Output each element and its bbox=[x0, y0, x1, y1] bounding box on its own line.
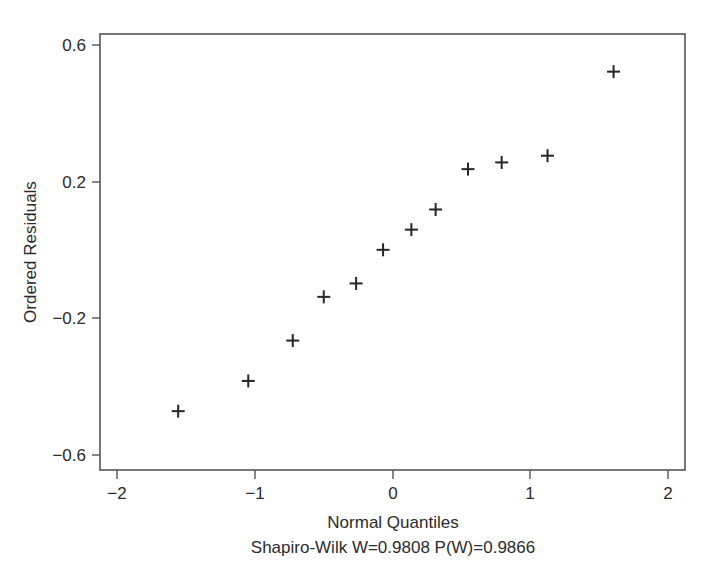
shapiro-wilk-caption: Shapiro-Wilk W=0.9808 P(W)=0.9866 bbox=[251, 538, 535, 557]
x-tick-label-3: 1 bbox=[525, 484, 534, 503]
y-axis-ticks bbox=[92, 45, 100, 455]
y-tick-label-1: −0.2 bbox=[52, 309, 86, 328]
data-point-group bbox=[172, 65, 620, 418]
plot-frame bbox=[100, 34, 685, 470]
y-tick-label-0: −0.6 bbox=[52, 446, 86, 465]
x-axis-ticks bbox=[117, 470, 668, 479]
y-axis-title: Ordered Residuals bbox=[21, 181, 40, 323]
data-point bbox=[317, 290, 330, 303]
data-point bbox=[429, 203, 442, 216]
plot-canvas: 0.6 0.2 −0.2 −0.6 −2 −1 0 1 2 Normal Qua… bbox=[0, 0, 715, 585]
x-tick-label-2: 0 bbox=[388, 484, 397, 503]
data-point bbox=[495, 156, 508, 169]
data-point bbox=[350, 277, 363, 290]
y-axis-tick-labels: 0.6 0.2 −0.2 −0.6 bbox=[52, 36, 86, 465]
data-point bbox=[607, 65, 620, 78]
qq-plot-figure: 0.6 0.2 −0.2 −0.6 −2 −1 0 1 2 Normal Qua… bbox=[0, 0, 715, 585]
x-tick-label-0: −2 bbox=[107, 484, 126, 503]
data-point bbox=[405, 223, 418, 236]
data-point bbox=[172, 405, 185, 418]
data-point bbox=[461, 163, 474, 176]
data-point bbox=[541, 149, 554, 162]
data-point bbox=[286, 334, 299, 347]
data-point bbox=[242, 374, 255, 387]
x-tick-label-1: −1 bbox=[245, 484, 264, 503]
y-tick-label-3: 0.6 bbox=[62, 36, 86, 55]
y-tick-label-2: 0.2 bbox=[62, 173, 86, 192]
x-tick-label-4: 2 bbox=[663, 484, 672, 503]
data-point bbox=[377, 243, 390, 256]
x-axis-tick-labels: −2 −1 0 1 2 bbox=[107, 484, 672, 503]
x-axis-title: Normal Quantiles bbox=[327, 513, 458, 532]
